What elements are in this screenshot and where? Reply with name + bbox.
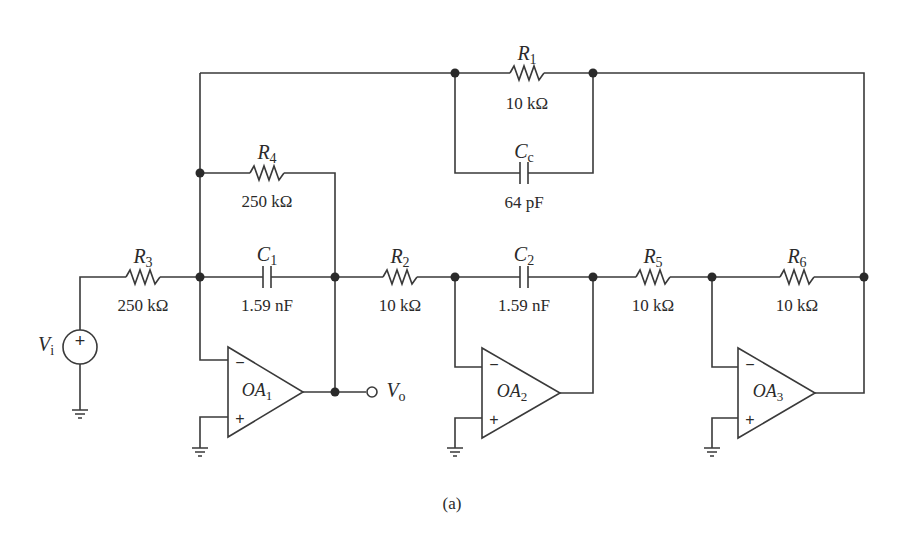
resistor-R4 (250, 166, 284, 180)
wire-source-ground (72, 364, 88, 418)
wire-oa3-output (815, 277, 864, 393)
wire-left-vertical (200, 73, 228, 360)
wire-oa3-plus-ground (704, 418, 738, 456)
label-R5: R5 (643, 245, 662, 271)
wire-oa1-plus-ground (192, 417, 228, 456)
capacitor-C1 (263, 266, 271, 288)
resistor-R5 (636, 270, 670, 284)
value-C1: 1.59 nF (241, 296, 293, 316)
wire-oa2-output (560, 277, 593, 393)
label-OA3: OA3 (753, 381, 784, 405)
output-terminal-Vo (367, 387, 377, 397)
wire-oa3-minus (712, 277, 738, 367)
label-R4: R4 (257, 141, 276, 167)
wire-oa2-minus (455, 277, 482, 367)
label-OA2: OA2 (497, 381, 528, 405)
source-polarity-plus: + (75, 331, 86, 352)
junction-dots (196, 69, 869, 397)
minus-sign-OA2: − (489, 356, 498, 374)
minus-sign-OA3: − (745, 356, 754, 374)
label-C1: C1 (257, 243, 277, 269)
plus-sign-OA3: + (745, 411, 754, 429)
circuit-schematic (0, 0, 904, 546)
label-R6: R6 (787, 245, 806, 271)
label-C2: C2 (514, 243, 534, 269)
value-R4: 250 kΩ (242, 192, 293, 212)
value-R3: 250 kΩ (118, 296, 169, 316)
resistor-R1 (510, 66, 544, 80)
resistor-R3 (126, 270, 160, 284)
value-R2: 10 kΩ (379, 296, 421, 316)
label-R2: R2 (390, 245, 409, 271)
resistor-R2 (383, 270, 417, 284)
label-Cc: Cc (514, 140, 534, 166)
figure-caption: (a) (443, 494, 462, 514)
value-R1: 10 kΩ (506, 94, 548, 114)
label-OA1: OA1 (242, 380, 273, 404)
label-R3: R3 (133, 245, 152, 271)
value-C2: 1.59 nF (498, 296, 550, 316)
label-Vo: Vo (386, 379, 405, 405)
label-R1: R1 (517, 42, 536, 68)
value-R5: 10 kΩ (632, 296, 674, 316)
plus-sign-OA1: + (235, 410, 244, 428)
plus-sign-OA2: + (489, 411, 498, 429)
resistor-R6 (780, 270, 814, 284)
minus-sign-OA1: − (235, 354, 244, 372)
label-Vi: Vi (38, 333, 54, 359)
wire-main (80, 277, 864, 330)
value-R6: 10 kΩ (776, 296, 818, 316)
capacitor-C2 (520, 266, 528, 288)
value-Cc: 64 pF (504, 193, 543, 213)
wire-oa2-plus-ground (447, 418, 482, 456)
